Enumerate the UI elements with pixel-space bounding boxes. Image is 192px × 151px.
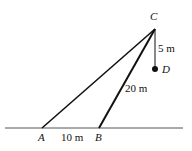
- label-b: B: [95, 131, 102, 143]
- segment-ac: [42, 29, 155, 128]
- point-d-dot: [152, 66, 158, 72]
- label-ab-length: 10 m: [61, 131, 84, 143]
- segment-bc: [99, 29, 155, 128]
- label-a: A: [37, 131, 45, 143]
- label-c: C: [150, 10, 158, 22]
- label-bc-length: 20 m: [125, 82, 148, 94]
- label-cd-length: 5 m: [158, 42, 175, 54]
- diagram-canvas: C D A B 5 m 20 m 10 m: [0, 0, 192, 151]
- label-d: D: [161, 63, 170, 75]
